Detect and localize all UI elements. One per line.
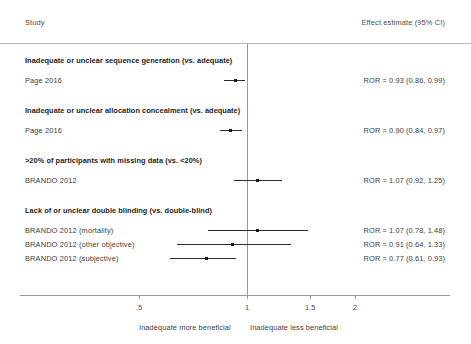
- effect-estimate-label: ROR = 0.90 (0.84, 0.97): [364, 126, 445, 135]
- column-header-study: Study: [25, 18, 45, 27]
- effect-estimate-label: ROR = 0.93 (0.86, 0.99): [364, 76, 445, 85]
- x-tick-label: 1: [227, 303, 267, 312]
- point-estimate-marker: [205, 257, 208, 260]
- x-axis-line: [20, 295, 450, 296]
- effect-estimate-label: ROR = 1.07 (0.92, 1.25): [364, 176, 445, 185]
- x-tick-label: 1.5: [290, 303, 330, 312]
- effect-estimate-label: ROR = 1.07 (0.78, 1.48): [364, 226, 445, 235]
- section-heading: >20% of participants with missing data (…: [25, 156, 202, 165]
- study-label: Page 2016: [25, 126, 62, 135]
- study-label: BRANDO 2012 (mortality): [25, 226, 113, 235]
- x-tick-label: .5: [119, 303, 159, 312]
- x-tick-mark: [310, 295, 311, 299]
- study-label: BRANDO 2012 (subjective): [25, 254, 119, 263]
- column-header-effect-estimate: Effect estimate (95% CI): [361, 18, 445, 27]
- section-heading: Lack of or unclear double blinding (vs. …: [25, 206, 212, 215]
- x-tick-mark: [247, 295, 248, 299]
- effect-estimate-label: ROR = 0.77 (0.61, 0.93): [364, 254, 445, 263]
- reference-line-null: [247, 43, 248, 296]
- point-estimate-marker: [231, 243, 234, 246]
- section-heading: Inadequate or unclear sequence generatio…: [25, 56, 232, 65]
- study-label: BRANDO 2012 (other objective): [25, 240, 135, 249]
- point-estimate-marker: [229, 129, 232, 132]
- study-label: Page 2016: [25, 76, 62, 85]
- point-estimate-marker: [234, 79, 237, 82]
- section-heading: Inadequate or unclear allocation conceal…: [25, 106, 240, 115]
- x-tick-mark: [355, 295, 356, 299]
- point-estimate-marker: [256, 229, 259, 232]
- footer-label-left: Inadequate more beneficial: [139, 323, 231, 332]
- footer-label-right: Inadequate less beneficial: [250, 323, 338, 332]
- confidence-interval-line: [177, 244, 291, 245]
- header-divider: [0, 43, 471, 44]
- study-label: BRANDO 2012: [25, 176, 77, 185]
- point-estimate-marker: [256, 179, 259, 182]
- effect-estimate-label: ROR = 0.91 (0.64, 1.33): [364, 240, 445, 249]
- confidence-interval-line: [170, 258, 236, 259]
- forest-plot: Study Effect estimate (95% CI) Inadequat…: [0, 0, 471, 344]
- x-tick-label: 2: [335, 303, 375, 312]
- x-tick-mark: [139, 295, 140, 299]
